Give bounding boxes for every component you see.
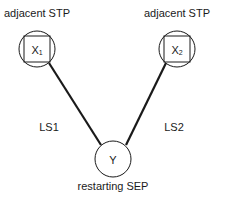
diagram-canvas [0, 0, 225, 197]
edge-ls1-label: LS1 [39, 121, 59, 133]
node-x2-text: X2 [171, 44, 182, 56]
node-x1-label: adjacent STP [4, 7, 70, 19]
node-y-text: Y [109, 154, 116, 166]
node-x1-text: X1 [31, 44, 42, 56]
link-ls2 [126, 63, 166, 145]
node-x2-label: adjacent STP [144, 7, 210, 19]
edge-ls2-label: LS2 [164, 121, 184, 133]
node-y-label: restarting SEP [78, 180, 149, 192]
